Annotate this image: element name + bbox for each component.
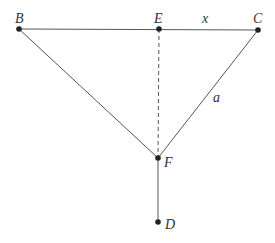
point-b [16,26,22,32]
point-d [155,219,161,225]
label-e: E [153,11,163,26]
label-f: F [163,155,173,170]
segment-bc [19,29,258,30]
segment-cf [158,30,258,158]
label-b: B [15,11,24,26]
point-f [155,155,161,161]
segment-ef-dashed [158,29,159,158]
label-c: C [253,11,263,26]
point-e [156,26,162,32]
segment-bf [19,29,158,158]
geometry-diagram: B E x C a F D [0,0,275,243]
label-d: D [164,217,175,232]
point-c [255,27,261,33]
label-a: a [213,90,220,105]
label-x: x [201,11,209,26]
